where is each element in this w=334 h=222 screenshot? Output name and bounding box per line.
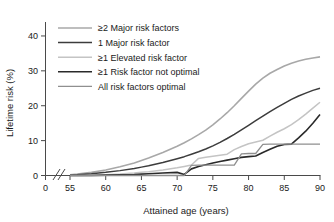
chart-figure: Lifetime risk (%) Attained age (years) 0…	[0, 0, 334, 222]
x-axis-title: Attained age (years)	[143, 205, 229, 216]
x-axis-tick-labels: 05560657075808590	[43, 176, 325, 194]
x-tick-label: 65	[136, 183, 146, 193]
y-axis-tick-labels: 010203040	[28, 31, 46, 181]
chart-legend: ≥2 Major risk factors1 Major risk factor…	[58, 23, 199, 91]
series-line-4	[70, 144, 320, 175]
y-tick-label: 40	[28, 31, 38, 41]
x-axis-break-icon	[53, 169, 65, 180]
x-tick-label: 75	[208, 183, 218, 193]
x-tick-label: 60	[101, 183, 111, 193]
series-line-2	[70, 102, 320, 175]
y-axis-title: Lifetime risk (%)	[4, 69, 15, 137]
x-tick-label: 55	[65, 183, 75, 193]
x-tick-label: 85	[279, 183, 289, 193]
y-tick-label: 20	[28, 101, 38, 111]
legend-label-0: ≥2 Major risk factors	[98, 23, 179, 33]
legend-label-1: 1 Major risk factor	[98, 38, 170, 48]
legend-label-4: All risk factors optimal	[98, 82, 186, 92]
x-tick-label: 0	[43, 183, 48, 193]
y-tick-label: 0	[33, 171, 38, 181]
lifetime-risk-line-chart: Lifetime risk (%) Attained age (years) 0…	[0, 0, 334, 222]
x-tick-label: 70	[172, 183, 182, 193]
series-line-3	[70, 114, 320, 175]
legend-label-2: ≥1 Elevated risk factor	[98, 53, 187, 63]
legend-label-3: ≥1 Risk factor not optimal	[98, 67, 199, 77]
y-tick-label: 10	[28, 136, 38, 146]
x-tick-label: 90	[315, 183, 325, 193]
x-tick-label: 80	[244, 183, 254, 193]
y-tick-label: 30	[28, 66, 38, 76]
